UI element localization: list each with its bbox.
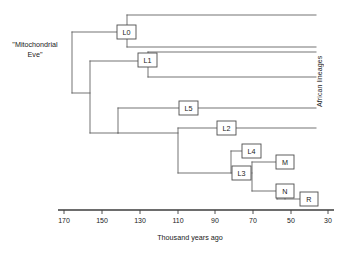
node-label-L3: L3 bbox=[237, 169, 245, 178]
tree-node-N[interactable]: N bbox=[276, 184, 294, 198]
tree-node-L1[interactable]: L1 bbox=[138, 53, 157, 67]
tree-node-R[interactable]: R bbox=[300, 192, 318, 206]
node-label-N: N bbox=[282, 187, 287, 196]
node-label-L5: L5 bbox=[184, 104, 192, 113]
node-label-L0: L0 bbox=[122, 28, 130, 37]
tree-node-L5[interactable]: L5 bbox=[179, 101, 198, 115]
axis-tick-label-50: 50 bbox=[287, 217, 295, 224]
axis-tick-label-170: 170 bbox=[58, 217, 70, 224]
time-axis: 17015013011090705030 Thousand years ago bbox=[58, 210, 334, 242]
node-label-R: R bbox=[306, 195, 311, 204]
axis-tick-label-130: 130 bbox=[134, 217, 146, 224]
node-label-L1: L1 bbox=[143, 56, 151, 65]
axis-tick-label-110: 110 bbox=[172, 217, 183, 224]
african-lineages-label: African lineages bbox=[316, 26, 328, 136]
axis-title: Thousand years ago bbox=[157, 233, 223, 242]
axis-ticks: 17015013011090705030 bbox=[58, 210, 332, 224]
node-label-M: M bbox=[282, 158, 288, 167]
node-label-L2: L2 bbox=[222, 124, 230, 133]
axis-tick-label-30: 30 bbox=[324, 217, 332, 224]
tree-node-L4[interactable]: L4 bbox=[242, 144, 261, 158]
axis-tick-label-90: 90 bbox=[211, 217, 219, 224]
node-label-L4: L4 bbox=[247, 147, 255, 156]
phylogenetic-tree-svg: L0L1L5L2L4L3MNR 17015013011090705030 Tho… bbox=[0, 0, 345, 256]
tree-node-L0[interactable]: L0 bbox=[117, 25, 136, 39]
tree-node-L3[interactable]: L3 bbox=[232, 166, 251, 180]
axis-tick-label-150: 150 bbox=[96, 217, 108, 224]
tree-node-M[interactable]: M bbox=[276, 155, 294, 169]
axis-tick-label-70: 70 bbox=[249, 217, 257, 224]
mitochondrial-eve-label: "Mitochondrial Eve" bbox=[2, 40, 68, 59]
figure-canvas: L0L1L5L2L4L3MNR 17015013011090705030 Tho… bbox=[0, 0, 345, 256]
tree-node-L2[interactable]: L2 bbox=[217, 121, 236, 135]
